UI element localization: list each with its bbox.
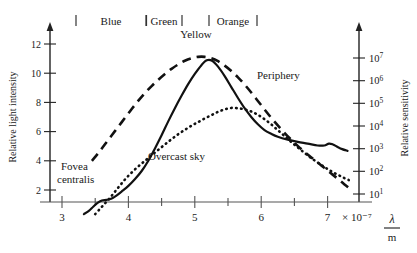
x-tick-label-5: 5 [192, 211, 198, 223]
label-fovea-centralis-line1: Fovea [61, 160, 88, 172]
left-tick-label-6: 6 [36, 126, 41, 137]
x-tick-label-4: 4 [126, 211, 132, 223]
band-label-blue: Blue [101, 15, 122, 27]
x-unit-factor-label: × 10⁻⁷ [342, 211, 372, 223]
x-tick-label-7: 7 [325, 211, 331, 223]
lambda-symbol: λ [388, 212, 394, 226]
band-label-yellow: Yellow [180, 28, 211, 40]
y-axis-left-title: Relative light intensity [7, 71, 18, 162]
meter-symbol: m [388, 231, 397, 243]
chart-svg: 2 4 6 8 10 12 101 102 103 104 105 106 10… [0, 0, 417, 253]
x-tick-label-6: 6 [258, 211, 264, 223]
label-periphery: Periphery [257, 69, 300, 81]
label-fovea-centralis-line2: centralis [57, 173, 94, 185]
left-tick-label-2: 2 [36, 185, 41, 196]
band-label-green: Green [151, 15, 178, 27]
x-tick-label-3: 3 [59, 211, 65, 223]
left-tick-label-8: 8 [36, 97, 41, 108]
spectral-sensitivity-chart: 2 4 6 8 10 12 101 102 103 104 105 106 10… [0, 0, 417, 253]
left-tick-label-10: 10 [31, 68, 41, 79]
band-label-orange: Orange [217, 15, 249, 27]
y-axis-right-title: Relative sensitivity [399, 80, 410, 157]
left-tick-label-4: 4 [36, 155, 41, 166]
label-overcast-sky: Overcast sky [148, 150, 206, 162]
left-tick-label-12: 12 [31, 39, 41, 50]
